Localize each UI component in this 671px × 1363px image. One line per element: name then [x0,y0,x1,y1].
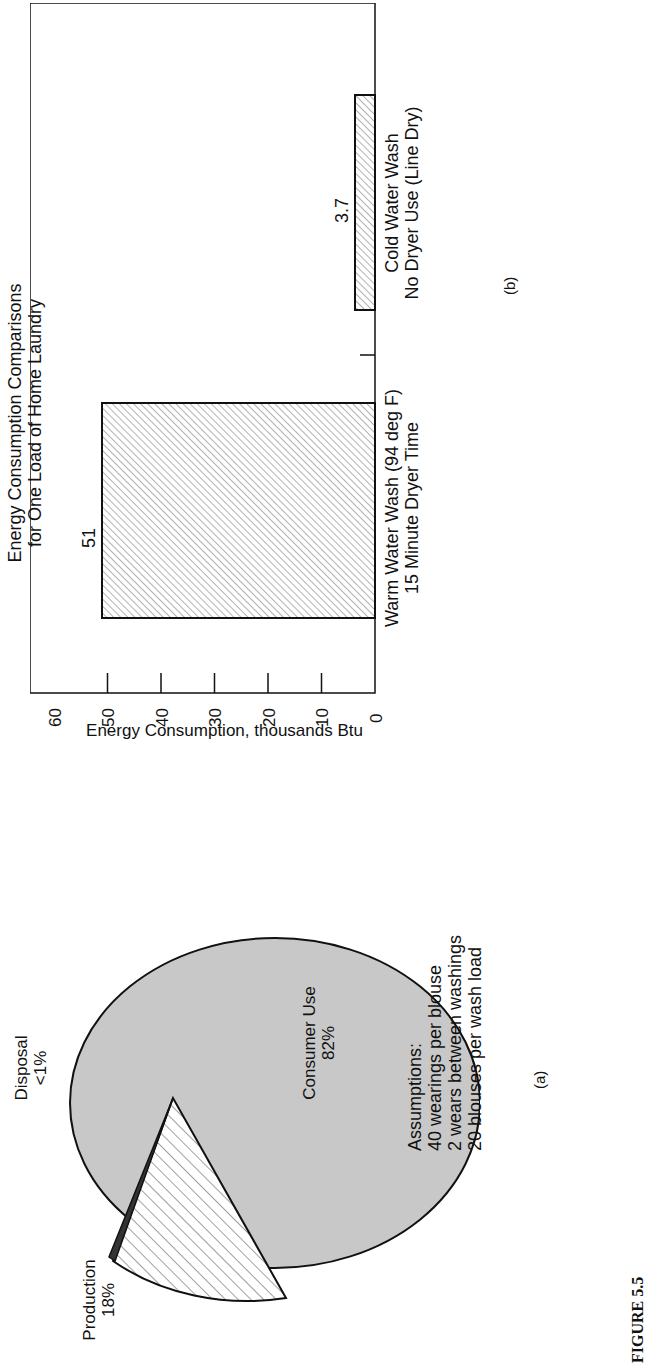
bar-category-warm: Warm Water Wash (94 deg F)15 Minute Drye… [382,373,422,643]
bar-chart [30,3,410,803]
bar-category-cold: Cold Water WashNo Dryer Use (Line Dry) [382,78,422,328]
consumer-use-label: Consumer Use82% [300,973,338,1113]
bar-cold-water-wash [355,95,375,310]
bar-value-warm: 51 [80,528,99,548]
figure-caption: FIGURE 5.5 [628,1277,647,1363]
panel-b-label: (b) [500,277,519,295]
assumptions-block: Assumptions: 40 wearings per blouse 2 we… [405,935,485,1151]
production-label: Production18% [80,1245,118,1355]
y-axis-label: Energy Consumption, thousands Btu [60,721,390,740]
disposal-label: Disposal<1% [12,1023,50,1113]
panel-a-label: (a) [530,1071,549,1089]
bar-value-cold: 3.7 [333,198,352,223]
bar-warm-water-wash [102,403,375,618]
figure-page: Production18% Disposal<1% Consumer Use82… [0,0,671,1363]
